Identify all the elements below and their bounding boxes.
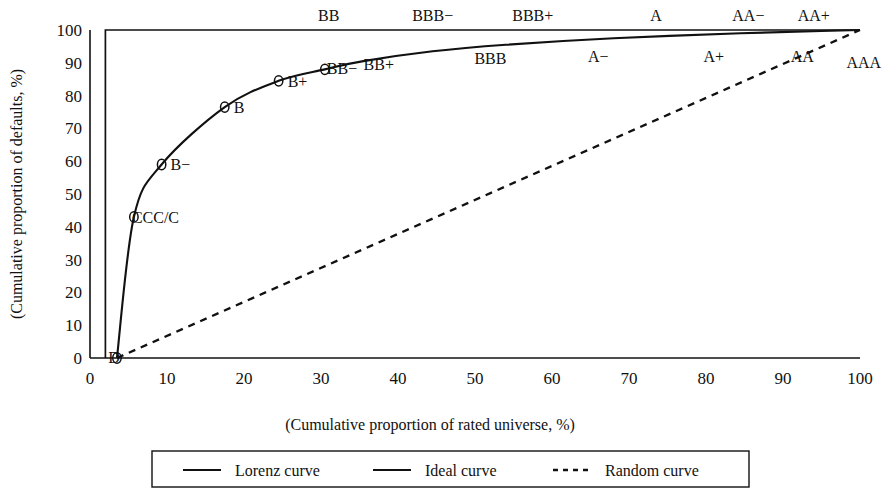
rating-annotation: A	[650, 7, 662, 24]
x-tick-label: 40	[390, 369, 407, 388]
rating-annotation: BB+	[364, 56, 394, 73]
y-tick-label: 100	[57, 21, 83, 40]
x-tick-label: 50	[467, 369, 484, 388]
y-tick-label: 90	[65, 54, 82, 73]
x-tick-label: 20	[236, 369, 253, 388]
rating-annotation: BB−	[327, 60, 357, 77]
rating-annotation: BBB	[474, 50, 506, 67]
rating-annotation: AA	[791, 48, 815, 65]
x-tick-label: 90	[775, 369, 792, 388]
legend-label-2: Ideal curve	[425, 462, 497, 479]
on-curve-annotations: CCC/CB−BB+BB−BB+BBBA−A+AAAAAD	[108, 48, 881, 366]
y-tick-label: 0	[74, 349, 83, 368]
x-tick-label: 70	[621, 369, 638, 388]
chart-canvas: 0102030405060708090100 01020304050607080…	[0, 0, 884, 492]
rating-annotation: B	[234, 99, 245, 116]
x-axis-tick-labels: 0102030405060708090100	[86, 369, 873, 388]
y-tick-label: 30	[65, 251, 82, 270]
x-tick-label: 30	[313, 369, 330, 388]
rating-annotation: D	[108, 349, 120, 366]
y-tick-label: 10	[65, 316, 82, 335]
above-curve-annotations: BBBBB−BBB+AAA−AA+	[318, 7, 830, 24]
rating-annotation: AA−	[732, 7, 764, 24]
legend-label-1: Lorenz curve	[235, 462, 320, 479]
rating-annotation: A−	[588, 48, 609, 65]
ideal-curve-path	[105, 30, 860, 358]
y-tick-label: 20	[65, 283, 82, 302]
random-curve-path	[117, 30, 860, 358]
rating-annotation: AAA	[847, 54, 882, 71]
rating-annotation: BBB−	[412, 7, 453, 24]
legend-label-3: Random curve	[605, 462, 699, 479]
rating-annotation: B−	[171, 156, 191, 173]
y-axis-tick-labels: 0102030405060708090100	[57, 21, 83, 368]
y-tick-label: 40	[65, 218, 82, 237]
rating-annotation: BB	[318, 7, 339, 24]
series-group	[105, 30, 860, 358]
rating-annotation: AA+	[798, 7, 830, 24]
rating-annotation: CCC/C	[132, 209, 179, 226]
legend: Lorenz curveIdeal curveRandom curve	[152, 451, 749, 487]
y-tick-label: 70	[65, 119, 82, 138]
x-tick-label: 10	[159, 369, 176, 388]
rating-annotation: A+	[703, 48, 724, 65]
x-axis-title: (Cumulative proportion of rated universe…	[285, 416, 575, 434]
x-tick-label: 100	[847, 369, 873, 388]
x-tick-label: 80	[698, 369, 715, 388]
rating-annotation: BBB+	[512, 7, 553, 24]
y-tick-label: 60	[65, 152, 82, 171]
x-tick-label: 0	[86, 369, 95, 388]
y-tick-label: 80	[65, 87, 82, 106]
lorenz-curve-figure: 0102030405060708090100 01020304050607080…	[0, 0, 884, 492]
y-tick-label: 50	[65, 185, 82, 204]
y-axis-title: (Cumulative proportion of defaults, %)	[8, 69, 26, 319]
rating-annotation: B+	[288, 73, 308, 90]
axes-group	[90, 30, 860, 358]
x-tick-label: 60	[544, 369, 561, 388]
